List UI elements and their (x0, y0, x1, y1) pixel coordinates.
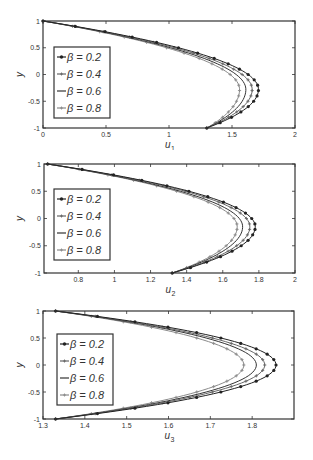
series-marker (96, 315, 99, 318)
series-marker (274, 363, 277, 366)
series-marker (133, 407, 136, 410)
series-marker (242, 363, 245, 366)
series-marker (195, 336, 198, 339)
series-marker (212, 385, 215, 388)
series-marker (244, 380, 247, 383)
series-marker (166, 401, 169, 404)
x-tick-label: 1.3 (38, 422, 48, 429)
y-tick-label: 1 (36, 308, 40, 315)
series-marker (195, 396, 198, 399)
x-tick-label: 1.6 (164, 422, 174, 429)
series-marker (244, 347, 247, 350)
legend-label: β = 0.4 (69, 355, 104, 367)
series-marker (166, 326, 169, 329)
series-marker (272, 369, 275, 372)
y-axis-label: y (14, 362, 25, 369)
legend-label: β = 0.2 (69, 338, 104, 350)
x-tick-label: 1.4 (80, 422, 90, 429)
legend-marker (63, 342, 66, 345)
series-marker (219, 390, 222, 393)
legend-label: β = 0.8 (69, 389, 105, 401)
series-marker (266, 374, 269, 377)
series-marker (255, 347, 258, 350)
series-marker (212, 342, 215, 345)
x-tick-label: 1.7 (205, 422, 215, 429)
legend-label: β = 0.6 (69, 372, 105, 384)
series-marker (230, 385, 233, 388)
series-marker (219, 336, 222, 339)
series-marker (195, 390, 198, 393)
x-tick-label: 1.5 (122, 422, 132, 429)
series-marker (266, 353, 269, 356)
series-marker (263, 363, 266, 366)
y-tick-label: 0 (36, 362, 40, 369)
series-marker (239, 385, 242, 388)
series-marker (272, 358, 275, 361)
chart-u3-profile: 1.31.41.51.61.71.8-1-0.500.51u3yβ = 0.2β… (0, 0, 313, 460)
series-marker (195, 331, 198, 334)
series-marker (96, 412, 99, 415)
legend: β = 0.2β = 0.4β = 0.6β = 0.8 (57, 334, 113, 405)
x-axis-label-subscript: 3 (171, 436, 175, 443)
series-marker (230, 342, 233, 345)
y-tick-label: -0.5 (28, 389, 40, 396)
y-tick-label: 0.5 (30, 335, 40, 342)
series-marker (133, 320, 136, 323)
series-marker (255, 380, 258, 383)
series-marker (239, 342, 242, 345)
y-tick-label: -1 (34, 416, 40, 423)
x-tick-label: 1.8 (247, 422, 257, 429)
chart-u3-svg: 1.31.41.51.61.71.8-1-0.500.51u3yβ = 0.2β… (0, 0, 313, 460)
